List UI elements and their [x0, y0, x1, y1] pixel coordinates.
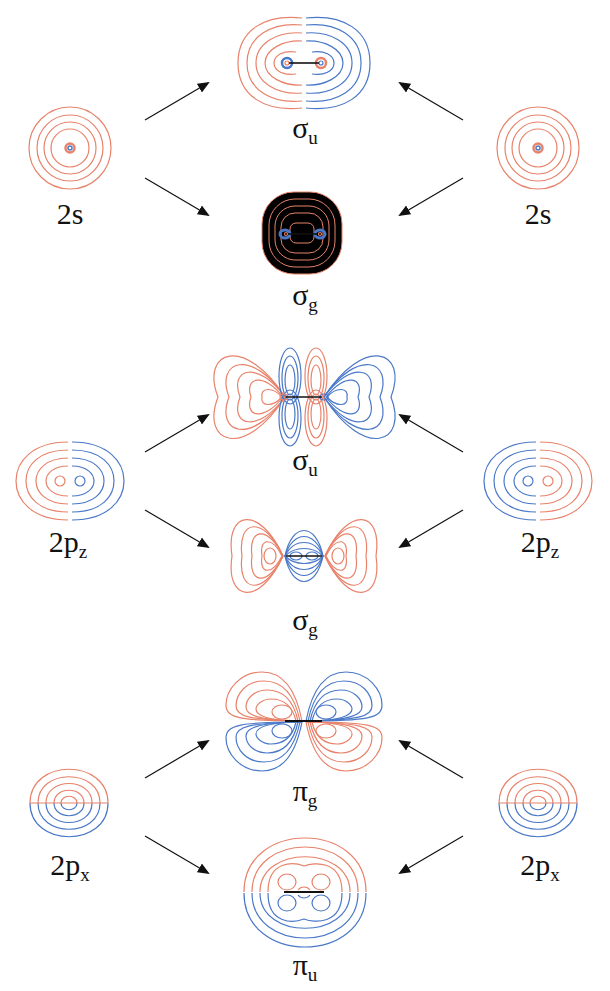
- molecular-orbital-pi-g: [226, 672, 382, 771]
- label-main: σ: [292, 603, 308, 636]
- label-main: π: [293, 774, 308, 807]
- label-main: 2p: [49, 525, 79, 558]
- molecular-orbital-sigma-u-2pz: [214, 348, 395, 446]
- label-main: 2s: [525, 197, 552, 230]
- label-sigma-u-2pz: σu: [292, 445, 318, 479]
- label-sub: z: [551, 541, 559, 562]
- label-2s-right: 2s: [525, 199, 552, 233]
- label-main: 2p: [50, 848, 80, 881]
- label-sigma-u-2s: σu: [292, 113, 318, 147]
- molecular-orbital-pi-u: [244, 838, 366, 947]
- label-sub: x: [80, 864, 90, 885]
- label-pi-u: πu: [293, 950, 318, 984]
- atomic-orbital-2px-left: [30, 769, 108, 837]
- label-sub: g: [308, 294, 318, 315]
- atomic-orbital-2pz-right: [484, 442, 592, 520]
- atomic-orbital-2s-left: [29, 107, 111, 189]
- molecular-orbital-sigma-u-2s: [238, 17, 370, 108]
- label-2px-left: 2px: [50, 850, 90, 884]
- atomic-orbital-2pz-left: [16, 442, 124, 520]
- label-main: 2p: [520, 848, 550, 881]
- orbital-diagram: [0, 0, 610, 991]
- label-main: σ: [292, 111, 308, 144]
- label-sub: x: [550, 864, 560, 885]
- label-main: 2s: [57, 197, 84, 230]
- label-main: π: [293, 948, 308, 981]
- label-2pz-left: 2pz: [49, 527, 87, 561]
- atomic-orbital-2px-right: [499, 769, 577, 837]
- atomic-orbital-2s-right: [497, 107, 579, 189]
- molecular-orbital-sigma-g-2pz: [231, 520, 377, 593]
- label-sub: g: [308, 619, 318, 640]
- label-pi-g: πg: [293, 776, 318, 810]
- label-2s-left: 2s: [57, 199, 84, 233]
- label-sub: u: [308, 964, 318, 985]
- label-main: σ: [292, 278, 308, 311]
- label-main: σ: [292, 443, 308, 476]
- label-sub: u: [308, 459, 318, 480]
- label-sigma-g-2s: σg: [292, 280, 318, 314]
- label-sub: g: [308, 790, 318, 811]
- label-sub: u: [308, 127, 318, 148]
- label-2pz-right: 2pz: [521, 527, 559, 561]
- label-2px-right: 2px: [520, 850, 560, 884]
- arrows-row-2: [145, 415, 463, 547]
- label-sub: z: [79, 541, 87, 562]
- molecular-orbital-sigma-g-2s: [262, 192, 342, 274]
- label-main: 2p: [521, 525, 551, 558]
- label-sigma-g-2pz: σg: [292, 605, 318, 639]
